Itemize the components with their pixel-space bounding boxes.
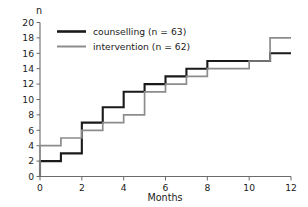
x-tick-label: 4 bbox=[121, 182, 127, 193]
y-tick-label: 2 bbox=[28, 155, 34, 166]
y-tick-label: 4 bbox=[28, 140, 34, 151]
y-tick-label: 6 bbox=[28, 125, 34, 136]
y-axis-title: n bbox=[36, 5, 42, 16]
x-tick-label: 12 bbox=[285, 182, 297, 193]
x-tick-label: 10 bbox=[243, 182, 255, 193]
legend-label-counselling: counselling (n = 63) bbox=[93, 26, 186, 37]
y-tick-label: 0 bbox=[28, 171, 34, 182]
y-tick-label: 10 bbox=[22, 94, 34, 105]
x-axis-title: Months bbox=[147, 192, 182, 203]
y-tick-label: 20 bbox=[22, 17, 34, 28]
chart-figure: 02468101214161820 024681012 n Months cou… bbox=[0, 0, 308, 207]
y-tick-label: 12 bbox=[22, 78, 34, 89]
y-tick-label: 16 bbox=[22, 48, 34, 59]
chart-canvas: 02468101214161820 024681012 n Months cou… bbox=[0, 0, 308, 207]
x-tick-label: 8 bbox=[204, 182, 210, 193]
y-tick-label: 14 bbox=[22, 63, 34, 74]
x-tick-label: 0 bbox=[37, 182, 43, 193]
y-tick-label: 18 bbox=[22, 32, 34, 43]
x-tick-label: 2 bbox=[79, 182, 85, 193]
y-tick-label: 8 bbox=[28, 109, 34, 120]
legend-label-intervention: intervention (n = 62) bbox=[93, 41, 190, 52]
